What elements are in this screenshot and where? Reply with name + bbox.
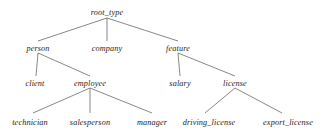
node-employee: employee — [74, 79, 106, 89]
node-salesperson: salesperson — [70, 118, 110, 128]
node-company: company — [92, 44, 123, 54]
node-root-type: root_type — [91, 8, 123, 18]
node-driving-license: driving_license — [183, 118, 236, 128]
node-client: client — [25, 79, 44, 89]
node-feature: feature — [166, 44, 190, 54]
taxonomy-tree-diagram: root_type person company feature client … — [0, 0, 324, 139]
node-person: person — [26, 44, 49, 54]
node-technician: technician — [12, 118, 48, 128]
node-export-license: export_license — [263, 118, 313, 128]
node-salary: salary — [169, 79, 190, 89]
tree-node-layer: root_type person company feature client … — [0, 0, 324, 139]
node-manager: manager — [137, 118, 167, 128]
node-license: license — [223, 79, 247, 89]
